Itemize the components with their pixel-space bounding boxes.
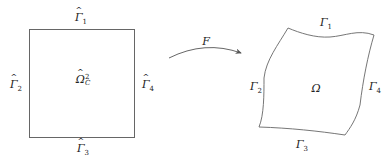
phys-omega-label: Ω — [311, 83, 320, 94]
gamma-index: 1 — [83, 18, 87, 26]
phys-gamma-1-label: Γ1 — [320, 17, 332, 31]
mapping-label: F — [202, 36, 210, 47]
gamma-index: 3 — [304, 145, 308, 153]
gamma-index: 2 — [18, 85, 22, 93]
gamma-symbol: Γ — [142, 79, 150, 90]
ref-gamma-2-label: Γ2 — [10, 79, 22, 93]
ref-gamma-3-label: Γ3 — [77, 143, 89, 157]
omega-subscript: C — [85, 80, 90, 86]
gamma-symbol: Γ — [75, 12, 83, 23]
gamma-symbol: Γ — [369, 80, 377, 93]
mapping-arrow — [169, 48, 241, 58]
phys-gamma-3-label: Γ3 — [296, 139, 308, 153]
gamma-index: 2 — [258, 87, 262, 95]
gamma-symbol: Γ — [10, 79, 18, 90]
gamma-index: 4 — [377, 87, 381, 95]
gamma-symbol: Γ — [296, 138, 304, 151]
omega-symbol: Ω — [76, 74, 85, 85]
ref-gamma-1-label: Γ1 — [75, 12, 87, 26]
ref-omega-label: Ω2C — [76, 74, 90, 87]
gamma-symbol: Γ — [250, 80, 258, 93]
gamma-index: 1 — [328, 23, 332, 31]
gamma-symbol: Γ — [77, 143, 85, 154]
ref-gamma-4-label: Γ4 — [142, 79, 154, 93]
gamma-index: 3 — [85, 149, 89, 157]
gamma-symbol: Γ — [320, 16, 328, 29]
phys-gamma-2-label: Γ2 — [250, 81, 262, 95]
phys-gamma-4-label: Γ4 — [369, 81, 381, 95]
gamma-index: 4 — [150, 85, 154, 93]
